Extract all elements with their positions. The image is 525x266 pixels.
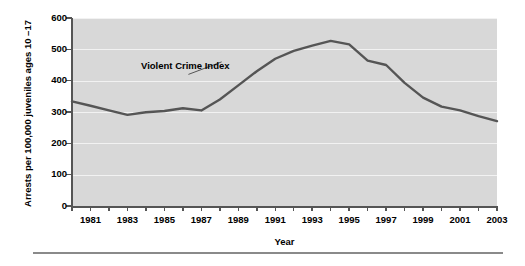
x-tick: [71, 206, 73, 211]
x-tick: [441, 206, 443, 211]
chart-figure: Arrests per 100,000 juveniles ages 10 –1…: [0, 0, 525, 266]
x-tick: [330, 206, 332, 211]
x-tick: [127, 206, 129, 211]
x-tick: [238, 206, 240, 211]
x-tick: [201, 206, 203, 211]
x-tick: [385, 206, 387, 211]
y-tick-label: 100: [27, 168, 67, 179]
x-tick: [219, 206, 221, 211]
series-annotation-label: Violent Crime Index: [141, 60, 230, 71]
x-tick: [478, 206, 480, 211]
x-tick: [348, 206, 350, 211]
x-tick-label: 2001: [440, 214, 480, 225]
x-tick: [256, 206, 258, 211]
x-axis-title: Year: [72, 236, 497, 247]
x-tick-label: 1989: [218, 214, 258, 225]
x-axis-line: [71, 206, 498, 208]
x-tick-label: 1993: [292, 214, 332, 225]
x-tick-label: 1985: [144, 214, 184, 225]
footer-divider: [33, 252, 503, 254]
x-tick: [90, 206, 92, 211]
x-tick: [459, 206, 461, 211]
x-tick: [293, 206, 295, 211]
x-tick-label: 2003: [477, 214, 517, 225]
x-tick: [311, 206, 313, 211]
x-tick-label: 1983: [107, 214, 147, 225]
y-tick-label: 600: [27, 12, 67, 23]
series-violent-crime-index: [72, 18, 497, 206]
x-tick-label: 1995: [329, 214, 369, 225]
x-tick: [182, 206, 184, 211]
x-tick-label: 1997: [366, 214, 406, 225]
x-tick: [422, 206, 424, 211]
y-tick-label: 0: [27, 200, 67, 211]
x-tick: [367, 206, 369, 211]
x-tick-label: 1981: [70, 214, 110, 225]
x-tick: [404, 206, 406, 211]
x-tick: [275, 206, 277, 211]
x-tick: [108, 206, 110, 211]
y-tick-label: 300: [27, 106, 67, 117]
x-tick-label: 1987: [181, 214, 221, 225]
x-tick-label: 1991: [255, 214, 295, 225]
x-tick: [164, 206, 166, 211]
y-tick-label: 400: [27, 74, 67, 85]
y-tick-label: 200: [27, 137, 67, 148]
x-tick: [145, 206, 147, 211]
x-tick: [496, 206, 498, 211]
series-line: [72, 41, 497, 121]
x-tick-label: 1999: [403, 214, 443, 225]
y-tick-label: 500: [27, 43, 67, 54]
